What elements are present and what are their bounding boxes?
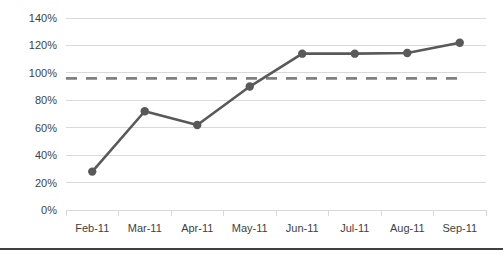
x-axis-tick-label: Feb-11 [75, 222, 109, 234]
x-axis-tick-label: May-11 [232, 222, 268, 234]
x-axis-tick-label: Aug-11 [390, 222, 425, 234]
x-axis-tick-label: Jul-11 [340, 222, 369, 234]
line-chart: 0%20%40%60%80%100%120%140% Feb-11Mar-11A… [0, 0, 503, 259]
data-point-marker [298, 49, 306, 57]
y-axis-tick-label: 140% [29, 12, 57, 24]
x-axis-tick-label: Mar-11 [128, 222, 162, 234]
data-point-marker [246, 82, 254, 90]
y-axis-tick-label: 40% [35, 149, 57, 161]
y-axis-labels: 0%20%40%60%80%100%120%140% [29, 12, 57, 216]
plot-background [66, 18, 486, 210]
x-axis-tick-label: Apr-11 [181, 222, 213, 234]
data-point-marker [193, 121, 201, 129]
data-point-marker [456, 38, 464, 46]
chart-container: 0%20%40%60%80%100%120%140% Feb-11Mar-11A… [0, 0, 503, 259]
x-axis-tick-label: Sep-11 [442, 222, 477, 234]
y-axis-tick-label: 0% [41, 204, 57, 216]
x-axis-ticks [66, 210, 486, 216]
data-point-marker [351, 49, 359, 57]
y-axis-tick-label: 120% [29, 39, 57, 51]
bottom-divider-rule [0, 248, 503, 250]
y-axis-tick-label: 60% [35, 122, 57, 134]
x-axis-labels: Feb-11Mar-11Apr-11May-11Jun-11Jul-11Aug-… [75, 222, 477, 234]
data-point-marker [141, 107, 149, 115]
data-point-marker [88, 167, 96, 175]
x-axis-tick-label: Jun-11 [286, 222, 319, 234]
y-axis-tick-label: 100% [29, 67, 57, 79]
y-axis-tick-label: 80% [35, 94, 57, 106]
data-point-marker [403, 49, 411, 57]
y-axis-tick-label: 20% [35, 177, 57, 189]
